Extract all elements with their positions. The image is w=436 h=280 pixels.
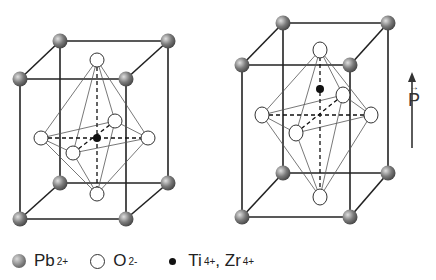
- oxygen-atom-icon: [90, 254, 105, 269]
- perovskite-diagram: [0, 0, 436, 280]
- lead-atom-icon: [12, 254, 26, 268]
- polarization-label: → P: [408, 90, 420, 111]
- legend-item-pb: Pb2+: [12, 251, 68, 271]
- legend-item-o: O2-: [90, 251, 137, 271]
- tetragonal-cell: [235, 16, 396, 225]
- legend: Pb2+ O2- Ti4+, Zr4+: [12, 251, 276, 271]
- vector-arrow-icon: →: [409, 81, 419, 92]
- ti-zr-atom: [93, 134, 101, 142]
- ti-zr-atom-icon: [169, 258, 176, 265]
- oxygen-atoms: [255, 42, 378, 205]
- oxygen-atoms: [34, 53, 155, 201]
- cubic-cell: [13, 34, 176, 227]
- ti-zr-atom: [316, 85, 324, 93]
- legend-item-ti-zr: Ti4+, Zr4+: [159, 251, 254, 271]
